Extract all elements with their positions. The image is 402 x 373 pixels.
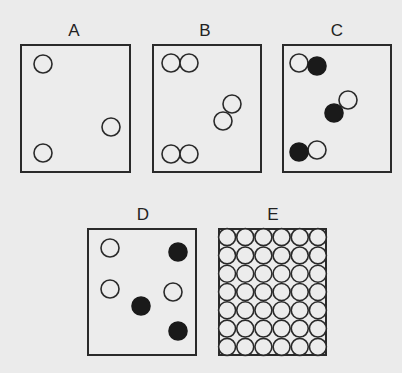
white-circle-d <box>164 283 182 301</box>
grid-circle-e <box>273 302 290 319</box>
grid-circle-e <box>291 338 308 355</box>
grid-circle-e <box>273 338 290 355</box>
grid-circle-e <box>255 320 272 337</box>
grid-circle-e <box>219 302 236 319</box>
grid-circle-e <box>219 265 236 282</box>
white-circle-b <box>180 54 198 72</box>
grid-circle-e <box>255 302 272 319</box>
grid-circle-e <box>309 265 326 282</box>
grid-circle-e <box>255 338 272 355</box>
grid-circle-e <box>273 247 290 264</box>
grid-circle-e <box>237 229 254 246</box>
white-circle-b <box>223 95 241 113</box>
grid-circle-e <box>309 302 326 319</box>
black-circle-d <box>169 243 187 261</box>
grid-circle-e <box>219 284 236 301</box>
grid-circle-e <box>273 229 290 246</box>
grid-circle-e <box>219 229 236 246</box>
circles-layer <box>0 0 402 373</box>
white-circle-c <box>339 91 357 109</box>
black-circle-c <box>308 57 326 75</box>
grid-circle-e <box>309 320 326 337</box>
white-circle-b <box>162 145 180 163</box>
grid-circle-e <box>291 320 308 337</box>
grid-circle-e <box>309 229 326 246</box>
grid-circle-e <box>291 284 308 301</box>
grid-circle-e <box>237 320 254 337</box>
grid-circle-e <box>219 247 236 264</box>
grid-circle-e <box>309 338 326 355</box>
grid-circle-e <box>255 284 272 301</box>
grid-circle-e <box>255 229 272 246</box>
grid-circle-e <box>237 302 254 319</box>
black-circle-c <box>325 104 343 122</box>
black-circle-d <box>132 297 150 315</box>
white-circle-d <box>101 280 119 298</box>
white-circle-a <box>34 55 52 73</box>
black-circle-c <box>290 143 308 161</box>
grid-circle-e <box>237 284 254 301</box>
grid-circle-e <box>291 229 308 246</box>
white-circle-a <box>102 118 120 136</box>
white-circle-d <box>101 239 119 257</box>
white-circle-c <box>290 54 308 72</box>
grid-circle-e <box>219 338 236 355</box>
grid-circle-e <box>273 320 290 337</box>
grid-circle-e <box>291 302 308 319</box>
grid-circle-e <box>291 265 308 282</box>
grid-circle-e <box>273 284 290 301</box>
grid-circle-e <box>255 247 272 264</box>
white-circle-a <box>34 144 52 162</box>
grid-circle-e <box>237 338 254 355</box>
black-circle-d <box>169 322 187 340</box>
grid-circle-e <box>309 247 326 264</box>
white-circle-b <box>180 145 198 163</box>
white-circle-b <box>214 112 232 130</box>
grid-circle-e <box>237 247 254 264</box>
grid-circle-e <box>291 247 308 264</box>
white-circle-c <box>308 141 326 159</box>
grid-circle-e <box>255 265 272 282</box>
grid-circle-e <box>273 265 290 282</box>
grid-circle-e <box>309 284 326 301</box>
grid-circle-e <box>219 320 236 337</box>
grid-circle-e <box>237 265 254 282</box>
white-circle-b <box>162 54 180 72</box>
